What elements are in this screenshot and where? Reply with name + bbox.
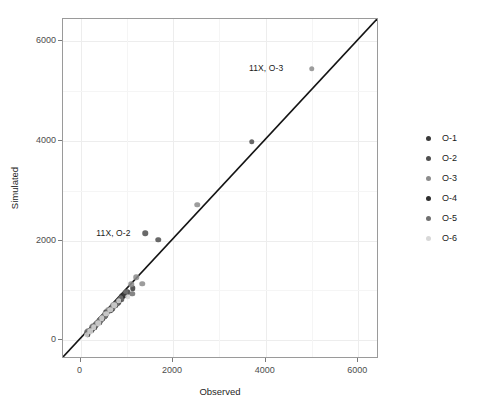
legend-item-label: O-6 <box>442 233 457 243</box>
data-point <box>156 237 162 243</box>
y-tick-mark <box>58 339 62 340</box>
data-point <box>116 298 122 304</box>
legend-item-label: O-1 <box>442 133 457 143</box>
x-tick-label: 0 <box>77 365 82 375</box>
chart-root: 11X, O-311X, O-2 02000400060000200040006… <box>0 0 486 407</box>
x-tick-mark <box>265 358 266 362</box>
gridline-x-minor <box>127 19 128 357</box>
data-point <box>139 281 145 287</box>
gridline-x <box>81 19 82 357</box>
legend-swatch <box>426 136 431 141</box>
y-axis-title: Simulated <box>9 167 20 209</box>
x-tick-mark <box>357 358 358 362</box>
legend: O-1O-2O-3O-4O-5O-6 <box>420 128 482 248</box>
legend-swatch <box>426 196 431 201</box>
legend-item-o-3[interactable]: O-3 <box>420 168 482 188</box>
legend-item-label: O-5 <box>442 213 457 223</box>
data-point <box>128 282 134 288</box>
x-tick-label: 6000 <box>347 365 367 375</box>
gridline-x <box>358 19 359 357</box>
x-tick-label: 2000 <box>162 365 182 375</box>
gridline-y-minor <box>63 91 377 92</box>
legend-dot-icon <box>420 156 436 161</box>
gridline-x <box>173 19 174 357</box>
x-axis-title: Observed <box>199 386 240 397</box>
legend-dot-icon <box>420 176 436 181</box>
data-point <box>95 320 101 326</box>
x-tick-mark <box>80 358 81 362</box>
y-tick-mark <box>58 40 62 41</box>
y-tick-mark <box>58 240 62 241</box>
legend-item-label: O-3 <box>442 173 457 183</box>
point-annotation: 11X, O-2 <box>96 228 130 238</box>
legend-dot-icon <box>420 196 436 201</box>
point-annotation: 11X, O-3 <box>249 63 283 73</box>
data-point <box>249 139 255 145</box>
data-point <box>125 294 131 300</box>
data-point <box>309 66 315 72</box>
y-tick-label: 6000 <box>26 35 56 45</box>
y-tick-label: 4000 <box>26 135 56 145</box>
y-tick-label: 0 <box>26 334 56 344</box>
legend-swatch <box>426 216 431 221</box>
gridline-y-minor <box>63 290 377 291</box>
y-tick-mark <box>58 140 62 141</box>
legend-item-o-1[interactable]: O-1 <box>420 128 482 148</box>
data-point <box>194 202 200 208</box>
gridline-x-minor <box>219 19 220 357</box>
x-tick-label: 4000 <box>255 365 275 375</box>
legend-item-label: O-4 <box>442 193 457 203</box>
legend-item-label: O-2 <box>442 153 457 163</box>
legend-item-o-2[interactable]: O-2 <box>420 148 482 168</box>
legend-dot-icon <box>420 216 436 221</box>
x-tick-mark <box>172 358 173 362</box>
data-point <box>133 275 139 281</box>
plot-panel: 11X, O-311X, O-2 <box>62 18 378 358</box>
legend-swatch <box>426 176 431 181</box>
legend-item-o-6[interactable]: O-6 <box>420 228 482 248</box>
data-point <box>143 230 149 236</box>
legend-item-o-5[interactable]: O-5 <box>420 208 482 228</box>
gridline-y-minor <box>63 191 377 192</box>
legend-swatch <box>426 156 431 161</box>
legend-item-o-4[interactable]: O-4 <box>420 188 482 208</box>
legend-dot-icon <box>420 236 436 241</box>
legend-dot-icon <box>420 136 436 141</box>
legend-swatch <box>426 236 431 241</box>
y-tick-label: 2000 <box>26 235 56 245</box>
